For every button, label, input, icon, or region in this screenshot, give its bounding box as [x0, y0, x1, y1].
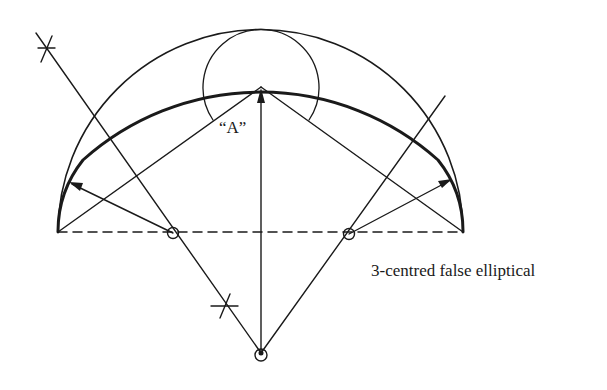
- radius-arrow-left: [72, 184, 173, 233]
- caption: 3-centred false elliptical: [371, 261, 536, 280]
- arrowhead-crown: [257, 88, 265, 103]
- centre-bottom-dot: [259, 351, 264, 356]
- chord-right: [261, 87, 463, 232]
- three-centred-arch-diagram: “A” 3-centred false elliptical: [0, 0, 607, 390]
- arrowhead-right: [438, 179, 452, 188]
- arrowhead-left: [69, 182, 83, 191]
- radius-line-right: [261, 96, 445, 353]
- radius-arrow-right: [349, 181, 449, 234]
- bisector-line-left: [36, 33, 261, 353]
- crown-label: “A”: [219, 118, 246, 137]
